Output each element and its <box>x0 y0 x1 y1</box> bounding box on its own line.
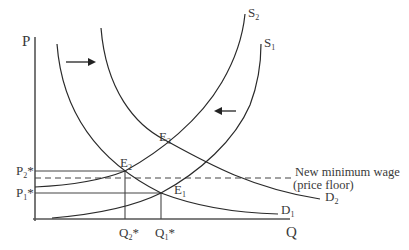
demand-curve-d2 <box>101 28 320 199</box>
e3-label: E3 <box>159 129 171 146</box>
q1-star-label: Q1* <box>155 225 175 242</box>
s1-label: S1 <box>264 35 275 52</box>
e1-label: E1 <box>174 182 186 199</box>
supply-curve-s1 <box>52 44 261 218</box>
e2-label: E2 <box>120 155 132 172</box>
y-axis-label: P <box>22 33 30 49</box>
minimum-wage-annotation-line2: (price floor) <box>293 178 354 192</box>
supply-demand-diagram: P Q S2 S1 D2 D1 E3 E2 E1 P2* P1* Q2* Q1*… <box>0 0 409 250</box>
q2-star-label: Q2* <box>119 225 139 242</box>
demand-curve-d1 <box>57 44 278 214</box>
x-axis-label: Q <box>286 224 297 240</box>
d1-label: D1 <box>281 202 294 219</box>
minimum-wage-annotation-line1: New minimum wage <box>295 165 400 179</box>
p1-star-label: P1* <box>16 185 34 202</box>
s2-label: S2 <box>248 5 259 22</box>
supply-curve-s2 <box>35 14 245 187</box>
p2-star-label: P2* <box>16 163 34 180</box>
